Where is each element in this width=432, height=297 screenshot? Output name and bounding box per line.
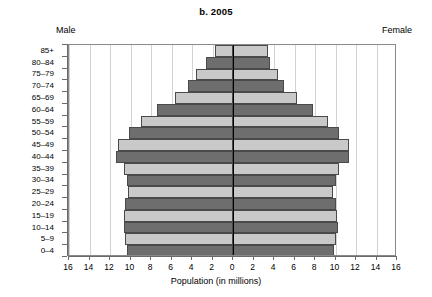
x-tick-mark	[376, 256, 377, 260]
bar-row	[69, 233, 395, 245]
bar-row	[69, 127, 395, 139]
bar-female	[233, 186, 333, 198]
x-tick-label: 8	[148, 262, 153, 272]
x-tick-mark	[171, 256, 172, 260]
bar-male	[196, 69, 233, 81]
male-series-header: Male	[56, 25, 76, 35]
x-tick-mark	[130, 256, 131, 260]
y-tick-label: 15–19	[32, 210, 54, 219]
y-tick-label: 25–29	[32, 187, 54, 196]
y-tick-mark	[62, 56, 67, 57]
x-tick-label: 6	[168, 262, 173, 272]
plot-area	[68, 44, 396, 256]
bar-row	[69, 175, 395, 187]
bar-male	[141, 116, 233, 128]
x-tick-mark	[355, 256, 356, 260]
bar-female	[233, 245, 334, 256]
y-tick-label: 30–34	[32, 175, 54, 184]
bar-female	[233, 210, 337, 222]
y-tick-mark	[62, 44, 67, 45]
x-tick-label: 16	[63, 262, 72, 272]
bar-male	[125, 198, 233, 210]
y-tick-mark	[62, 126, 67, 127]
x-tick-label: 6	[291, 262, 296, 272]
bar-female	[233, 80, 284, 92]
bar-row	[69, 245, 395, 256]
y-tick-label: 20–24	[32, 199, 54, 208]
bar-row	[69, 222, 395, 234]
x-tick-label: 4	[189, 262, 194, 272]
y-tick-mark	[62, 162, 67, 163]
bar-female	[233, 151, 349, 163]
bar-male	[127, 245, 233, 256]
y-axis-labels: 0–45–910–1415–1920–2425–2930–3435–3940–4…	[0, 44, 62, 256]
bar-row	[69, 69, 395, 81]
x-axis-title: Population (in millions)	[0, 276, 432, 286]
bar-female	[233, 198, 336, 210]
bar-row	[69, 151, 395, 163]
y-tick-label: 80–84	[32, 57, 54, 66]
x-tick-mark	[253, 256, 254, 260]
bar-female	[233, 222, 338, 234]
bar-row	[69, 57, 395, 69]
y-tick-mark	[62, 221, 67, 222]
bar-female	[233, 92, 297, 104]
bar-row	[69, 116, 395, 128]
bar-male	[129, 127, 233, 139]
bar-row	[69, 210, 395, 222]
bar-row	[69, 45, 395, 57]
x-tick-label: 12	[104, 262, 113, 272]
bar-row	[69, 139, 395, 151]
y-tick-mark	[62, 185, 67, 186]
x-tick-label: 16	[391, 262, 400, 272]
bar-female	[233, 175, 336, 187]
x-tick-label: 10	[330, 262, 339, 272]
y-tick-mark	[62, 91, 67, 92]
y-tick-mark	[62, 103, 67, 104]
x-tick-label: 8	[312, 262, 317, 272]
y-tick-label: 55–59	[32, 116, 54, 125]
population-pyramid-figure: b. 2005 Male Female 0–45–910–1415–1920–2…	[0, 0, 432, 297]
x-tick-mark	[109, 256, 110, 260]
bar-male	[124, 222, 233, 234]
x-tick-label: 0	[230, 262, 235, 272]
x-tick-label: 14	[371, 262, 380, 272]
x-tick-label: 14	[84, 262, 93, 272]
bar-female	[233, 163, 339, 175]
x-tick-mark	[212, 256, 213, 260]
x-tick-label: 2	[209, 262, 214, 272]
chart-title: b. 2005	[0, 6, 432, 17]
x-tick-mark	[335, 256, 336, 260]
x-tick-label: 10	[125, 262, 134, 272]
x-axis-ticks: 1614121086420246810121416	[68, 256, 396, 276]
y-tick-label: 50–54	[32, 128, 54, 137]
bar-male	[124, 210, 233, 222]
bar-male	[188, 80, 233, 92]
bar-male	[175, 92, 233, 104]
bar-row	[69, 104, 395, 116]
bar-male	[215, 45, 233, 57]
x-tick-mark	[68, 256, 69, 260]
center-axis-line	[233, 45, 234, 255]
bar-male	[125, 233, 233, 245]
bar-row	[69, 198, 395, 210]
x-tick-mark	[150, 256, 151, 260]
y-tick-label: 10–14	[32, 222, 54, 231]
x-tick-label: 4	[271, 262, 276, 272]
x-tick-mark	[89, 256, 90, 260]
bar-female	[233, 57, 270, 69]
y-tick-mark	[62, 209, 67, 210]
bar-female	[233, 69, 278, 81]
bar-female	[233, 233, 336, 245]
y-tick-mark	[62, 232, 67, 233]
y-tick-mark	[62, 115, 67, 116]
bar-female	[233, 116, 328, 128]
bar-row	[69, 92, 395, 104]
bar-male	[206, 57, 233, 69]
y-tick-label: 0–4	[41, 246, 54, 255]
y-tick-label: 60–64	[32, 104, 54, 113]
y-tick-label: 45–49	[32, 140, 54, 149]
y-tick-mark	[62, 150, 67, 151]
bar-male	[116, 151, 233, 163]
y-tick-mark	[62, 68, 67, 69]
